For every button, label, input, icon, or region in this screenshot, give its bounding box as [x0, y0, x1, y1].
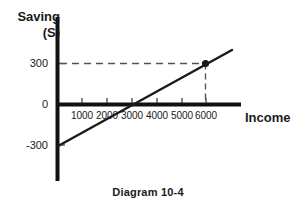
y-axis-title-line-2: (S)	[0, 26, 60, 39]
y-axis-title-line-1: Saving	[0, 10, 60, 23]
figure-caption: Diagram 10-4	[0, 186, 296, 198]
data-point-marker	[202, 60, 209, 67]
y-tick-label-neg300: -300	[8, 140, 48, 151]
y-axis-title: Saving (S)	[0, 10, 60, 39]
x-tick-label-1000: 1000	[69, 111, 95, 121]
x-tick-label-5000: 5000	[169, 111, 195, 121]
x-axis-title: Income	[245, 111, 291, 124]
diagram-figure: Saving (S) Income 300 0 -300 1000 2000 3…	[0, 0, 296, 205]
y-tick-label-300: 300	[8, 58, 48, 69]
x-tick-label-4000: 4000	[144, 111, 170, 121]
x-tick-label-3000: 3000	[119, 111, 145, 121]
y-tick-label-0: 0	[8, 99, 48, 110]
x-tick-label-2000: 2000	[94, 111, 120, 121]
x-tick-label-6000: 6000	[193, 111, 219, 121]
